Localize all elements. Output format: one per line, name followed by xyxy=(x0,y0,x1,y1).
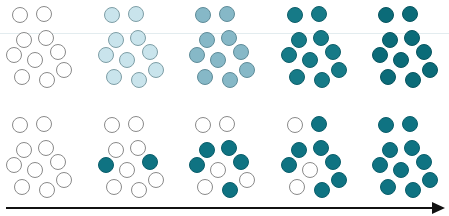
circle-icon xyxy=(128,6,144,22)
circle-icon xyxy=(393,52,409,68)
circle-icon xyxy=(27,52,43,68)
circle-icon xyxy=(219,6,235,22)
circle-icon xyxy=(148,62,164,78)
circle-icon xyxy=(131,72,147,88)
circle-icon xyxy=(98,47,114,63)
empty-circle-icon xyxy=(6,157,22,173)
circle-icon xyxy=(222,72,238,88)
empty-circle-icon xyxy=(12,117,28,133)
empty-circle-icon xyxy=(287,117,303,133)
circle-icon xyxy=(331,62,347,78)
circle-icon xyxy=(16,32,32,48)
circle-icon xyxy=(6,47,22,63)
empty-circle-icon xyxy=(289,179,305,195)
empty-circle-icon xyxy=(56,172,72,188)
circle-icon xyxy=(233,44,249,60)
filled-circle-icon xyxy=(314,182,330,198)
diagram-canvas xyxy=(0,0,449,216)
filled-circle-icon xyxy=(313,140,329,156)
empty-circle-icon xyxy=(14,179,30,195)
empty-circle-icon xyxy=(302,162,318,178)
empty-circle-icon xyxy=(197,179,213,195)
circle-icon xyxy=(404,30,420,46)
filled-circle-icon xyxy=(221,140,237,156)
circle-icon xyxy=(119,52,135,68)
top-cluster-3 xyxy=(185,0,265,95)
circle-icon xyxy=(239,62,255,78)
filled-circle-icon xyxy=(372,157,388,173)
circle-icon xyxy=(199,32,215,48)
circle-icon xyxy=(402,6,418,22)
empty-circle-icon xyxy=(148,172,164,188)
filled-circle-icon xyxy=(380,179,396,195)
top-cluster-2 xyxy=(94,0,174,95)
circle-icon xyxy=(289,69,305,85)
empty-circle-icon xyxy=(50,154,66,170)
filled-circle-icon xyxy=(142,154,158,170)
filled-circle-icon xyxy=(189,157,205,173)
empty-circle-icon xyxy=(27,162,43,178)
circle-icon xyxy=(281,47,297,63)
top-cluster-1 xyxy=(2,0,82,95)
circle-icon xyxy=(39,72,55,88)
arrow-head-icon xyxy=(432,202,445,214)
circle-icon xyxy=(197,69,213,85)
circle-icon xyxy=(104,7,120,23)
filled-circle-icon xyxy=(281,157,297,173)
circle-icon xyxy=(38,30,54,46)
filled-circle-icon xyxy=(311,116,327,132)
circle-icon xyxy=(14,69,30,85)
circle-icon xyxy=(416,44,432,60)
empty-circle-icon xyxy=(130,140,146,156)
filled-circle-icon xyxy=(422,172,438,188)
circle-icon xyxy=(302,52,318,68)
circle-icon xyxy=(378,7,394,23)
bottom-cluster-2 xyxy=(94,110,174,205)
empty-circle-icon xyxy=(131,182,147,198)
bottom-cluster-3 xyxy=(185,110,265,205)
filled-circle-icon xyxy=(378,117,394,133)
circle-icon xyxy=(130,30,146,46)
circle-icon xyxy=(311,6,327,22)
filled-circle-icon xyxy=(405,182,421,198)
circle-icon xyxy=(221,30,237,46)
bottom-cluster-5 xyxy=(368,110,448,205)
empty-circle-icon xyxy=(104,117,120,133)
circle-icon xyxy=(382,32,398,48)
circle-icon xyxy=(422,62,438,78)
circle-icon xyxy=(380,69,396,85)
filled-circle-icon xyxy=(222,182,238,198)
empty-circle-icon xyxy=(36,116,52,132)
empty-circle-icon xyxy=(239,172,255,188)
circle-icon xyxy=(50,44,66,60)
filled-circle-icon xyxy=(98,157,114,173)
circle-icon xyxy=(106,69,122,85)
filled-circle-icon xyxy=(291,142,307,158)
filled-circle-icon xyxy=(199,142,215,158)
filled-circle-icon xyxy=(382,142,398,158)
circle-icon xyxy=(287,7,303,23)
circle-icon xyxy=(56,62,72,78)
filled-circle-icon xyxy=(404,140,420,156)
circle-icon xyxy=(314,72,330,88)
empty-circle-icon xyxy=(210,162,226,178)
filled-circle-icon xyxy=(402,116,418,132)
empty-circle-icon xyxy=(39,182,55,198)
bottom-cluster-4 xyxy=(277,110,357,205)
circle-icon xyxy=(291,32,307,48)
filled-circle-icon xyxy=(393,162,409,178)
empty-circle-icon xyxy=(195,117,211,133)
filled-circle-icon xyxy=(233,154,249,170)
empty-circle-icon xyxy=(108,142,124,158)
circle-icon xyxy=(36,6,52,22)
circle-icon xyxy=(108,32,124,48)
empty-circle-icon xyxy=(16,142,32,158)
circle-icon xyxy=(325,44,341,60)
empty-circle-icon xyxy=(38,140,54,156)
circle-icon xyxy=(12,7,28,23)
circle-icon xyxy=(313,30,329,46)
circle-icon xyxy=(142,44,158,60)
empty-circle-icon xyxy=(219,116,235,132)
empty-circle-icon xyxy=(128,116,144,132)
filled-circle-icon xyxy=(331,172,347,188)
